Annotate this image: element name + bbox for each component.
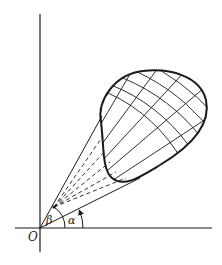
alpha-arc: [80, 212, 83, 228]
beta-arc: [54, 207, 65, 228]
beta-label: β: [45, 214, 52, 227]
origin-label: O: [28, 230, 38, 244]
upper-bounding-ray: [40, 116, 102, 228]
polar-region-diagram: O β α: [0, 0, 222, 265]
lower-bounding-ray: [40, 178, 140, 228]
alpha-label: α: [68, 214, 76, 227]
